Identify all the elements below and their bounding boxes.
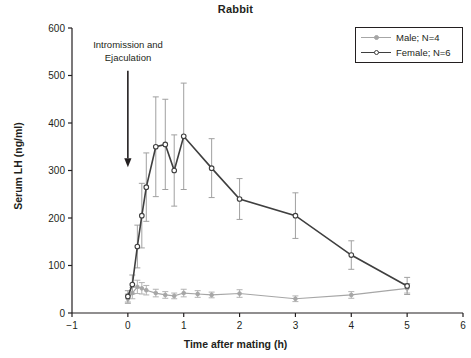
- annotation-arrow-head: [124, 158, 131, 167]
- legend-swatch-male: [361, 32, 391, 44]
- x-tick-label: 6: [460, 320, 466, 331]
- data-point-male: [210, 293, 214, 297]
- data-point-male: [144, 288, 148, 292]
- y-tick-label: 200: [48, 213, 65, 224]
- data-point-female: [209, 166, 214, 171]
- y-tick-label: 400: [48, 118, 65, 129]
- data-point-male: [135, 285, 139, 289]
- data-point-female: [237, 197, 242, 202]
- data-point-female: [135, 244, 140, 249]
- legend-item-male: Male; N=4: [361, 30, 440, 45]
- data-point-male: [182, 291, 186, 295]
- data-point-female: [293, 213, 298, 218]
- chart-title: Rabbit: [0, 3, 471, 15]
- data-point-male: [196, 292, 200, 296]
- legend-item-female: Female; N=6: [361, 45, 451, 60]
- data-point-male: [172, 294, 176, 298]
- data-point-female: [130, 282, 135, 287]
- annotation-intromission: Intromission and Ejaculation: [68, 38, 188, 64]
- data-point-female: [349, 253, 354, 258]
- legend-swatch-female: [361, 47, 391, 59]
- data-point-female: [126, 294, 131, 299]
- data-point-female: [144, 185, 149, 190]
- data-point-male: [294, 297, 298, 301]
- annotation-line-1: Intromission and: [68, 38, 188, 51]
- data-point-female: [163, 142, 168, 147]
- data-point-female: [140, 213, 145, 218]
- x-tick-label: 4: [349, 320, 355, 331]
- legend-label-female: Female; N=6: [396, 47, 451, 58]
- data-point-male: [140, 286, 144, 290]
- data-point-female: [405, 284, 410, 289]
- x-tick-label: 3: [293, 320, 299, 331]
- y-tick-label: 100: [48, 260, 65, 271]
- data-point-female: [153, 144, 158, 149]
- x-tick-label: 5: [404, 320, 410, 331]
- x-tick-label: −1: [66, 320, 78, 331]
- legend-label-male: Male; N=4: [396, 32, 440, 43]
- y-tick-label: 0: [59, 308, 65, 319]
- legend-marker-male: [374, 35, 379, 40]
- legend-marker-female: [374, 50, 379, 55]
- data-point-male: [154, 291, 158, 295]
- y-tick-label: 500: [48, 70, 65, 81]
- data-point-male: [163, 293, 167, 297]
- x-tick-label: 1: [181, 320, 187, 331]
- series-line-female: [128, 136, 407, 296]
- x-tick-label: 2: [237, 320, 243, 331]
- data-point-female: [181, 134, 186, 139]
- chart-figure: Rabbit Serum LH (ng/ml) Time after matin…: [0, 0, 471, 358]
- legend: Male; N=4 Female; N=6: [355, 27, 463, 63]
- y-tick-label: 300: [48, 165, 65, 176]
- data-point-male: [349, 293, 353, 297]
- y-axis-label: Serum LH (ng/ml): [12, 91, 24, 241]
- series-line-male: [128, 287, 407, 299]
- data-point-female: [172, 168, 177, 173]
- x-tick-label: 0: [125, 320, 131, 331]
- data-point-male: [238, 292, 242, 296]
- y-tick-label: 600: [48, 23, 65, 34]
- annotation-line-2: Ejaculation: [68, 51, 188, 64]
- x-axis-label: Time after mating (h): [0, 338, 471, 350]
